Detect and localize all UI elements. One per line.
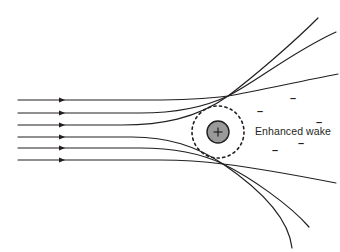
dust-grain-core (207, 121, 229, 143)
streamline-group-inflow (18, 100, 62, 160)
negative-charge-icon-4: – (298, 138, 304, 149)
negative-charge-icon-1: – (290, 93, 296, 104)
streamline-lower-inner (60, 137, 292, 248)
negative-charge-icon-5: – (272, 145, 278, 156)
negative-charge-icon-2: – (257, 106, 263, 117)
negative-charge-icon-3: – (316, 117, 322, 128)
wake-diagram-figure: Enhanced wake – – – – – (0, 0, 340, 252)
streamline-lower-outer (60, 160, 336, 183)
streamline-upper-outer (60, 74, 338, 100)
